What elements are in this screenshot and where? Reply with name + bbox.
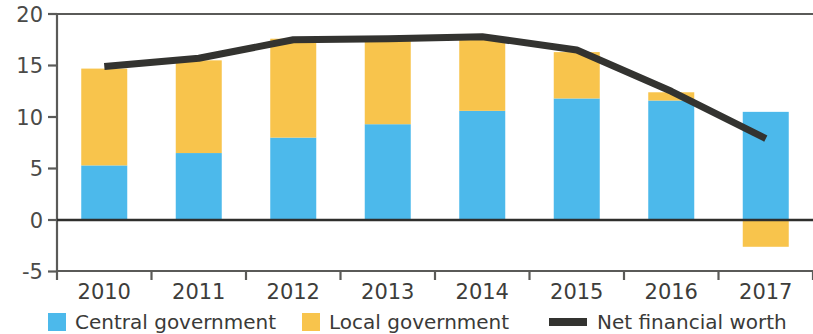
chart-legend: Central governmentLocal governmentNet fi… — [48, 310, 787, 334]
bar-segment-local-government — [743, 220, 789, 247]
y-axis-tick-label: 20 — [16, 3, 43, 27]
bar-segment-local-government — [459, 38, 505, 111]
bar-segment-local-government — [176, 60, 222, 153]
bar-segment-local-government — [365, 39, 411, 124]
y-axis-tick-label: 0 — [30, 209, 43, 233]
bar-segment-local-government — [270, 39, 316, 138]
x-axis-tick-label: 2015 — [550, 280, 603, 304]
y-axis-tick-label: 15 — [16, 54, 43, 78]
bar-segment-central-government — [176, 153, 222, 220]
x-axis-tick-label: 2010 — [78, 280, 131, 304]
x-axis-tick-label: 2012 — [267, 280, 320, 304]
bar-segment-local-government — [81, 69, 127, 166]
legend-label: Local government — [329, 310, 509, 334]
chart-canvas: 20151050-5 20102011201220132014201520162… — [0, 0, 813, 334]
x-axis-tick-label: 2017 — [739, 280, 792, 304]
legend-swatch-central-government — [48, 313, 66, 331]
y-axis-tick-label: -5 — [22, 260, 43, 284]
bar-segment-central-government — [81, 165, 127, 220]
legend-label: Net financial worth — [597, 310, 787, 334]
bar-segment-central-government — [648, 101, 694, 220]
bar-segment-central-government — [365, 124, 411, 220]
legend-swatch-local-government — [302, 313, 320, 331]
financial-worth-chart: 20151050-5 20102011201220132014201520162… — [0, 0, 813, 334]
y-axis-tick-label: 5 — [30, 157, 43, 181]
x-axis-tick-label: 2016 — [645, 280, 698, 304]
bar-segment-central-government — [270, 138, 316, 220]
x-axis-tick-label: 2014 — [456, 280, 509, 304]
bar-segment-central-government — [459, 111, 505, 220]
x-axis-tick-label: 2011 — [172, 280, 225, 304]
bar-segment-central-government — [554, 98, 600, 220]
y-axis-tick-label: 10 — [16, 106, 43, 130]
x-axis-tick-label: 2013 — [361, 280, 414, 304]
legend-label: Central government — [75, 310, 276, 334]
